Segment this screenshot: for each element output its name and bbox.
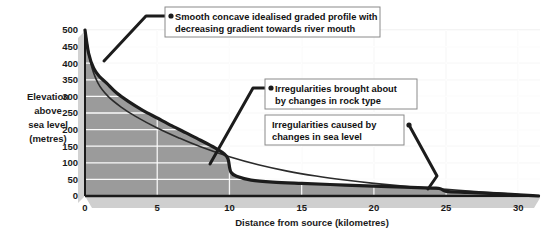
annotation-text-line: Irregularities caused by xyxy=(272,120,377,130)
y-axis-title-line: sea level xyxy=(28,119,68,130)
y-tick-label: 0 xyxy=(73,190,78,201)
chart-figure: 050100150200250300350400450500 051015202… xyxy=(0,0,548,236)
y-axis-title-line: Elevation xyxy=(27,91,69,102)
annotation-text-line: by changes in rock type xyxy=(275,96,381,106)
annotation-text-line: changes in sea level xyxy=(272,132,362,142)
y-tick-label: 400 xyxy=(62,58,78,69)
x-tick-label: 5 xyxy=(155,202,161,213)
y-tick-label: 350 xyxy=(62,74,78,85)
annotation-text-line: Smooth concave idealised graded profile … xyxy=(175,12,378,22)
annotation-marker-dot xyxy=(406,122,411,127)
x-tick-label: 30 xyxy=(513,202,524,213)
y-tick-label: 450 xyxy=(62,41,78,52)
x-tick-label: 25 xyxy=(441,202,452,213)
annotation-text-line: Irregularities brought about xyxy=(275,84,397,94)
annotation-text-line: decreasing gradient towards river mouth xyxy=(175,24,356,34)
x-tick-label: 0 xyxy=(82,202,87,213)
y-tick-label: 100 xyxy=(62,157,78,168)
x-tick-label: 15 xyxy=(296,202,307,213)
annotation-marker-dot xyxy=(168,13,173,18)
x-tick-label: 20 xyxy=(369,202,380,213)
axis-side-wall xyxy=(78,31,85,203)
annotation-marker-dot xyxy=(268,85,273,90)
y-axis-title-line: above xyxy=(34,105,61,116)
x-tick-label: 10 xyxy=(224,202,235,213)
river-long-profile-chart: 050100150200250300350400450500 051015202… xyxy=(0,0,548,236)
y-tick-label: 500 xyxy=(62,24,78,35)
y-tick-label: 50 xyxy=(67,174,78,185)
y-axis-title-line: (metres) xyxy=(29,133,67,144)
y-tick-label: 250 xyxy=(62,107,78,118)
x-axis-title: Distance from source (kilometres) xyxy=(235,217,389,228)
